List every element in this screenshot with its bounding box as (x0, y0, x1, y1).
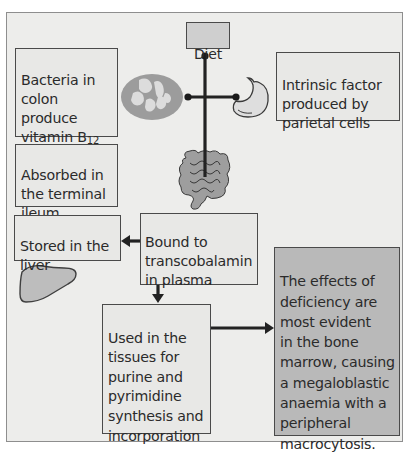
absorbed-box: Absorbed in the terminal ileum (15, 144, 118, 207)
bacteria-icon (121, 74, 183, 120)
intrinsic-factor-box: Intrinsic factor produced by parietal ce… (276, 52, 400, 121)
intrinsic-factor-label: Intrinsic factor produced by parietal ce… (282, 77, 382, 131)
used-in-tissues-label: Used in the tissues for purine and pyrim… (108, 330, 203, 444)
diet-label: Diet (194, 46, 222, 62)
arrow-used-to-effects (210, 322, 274, 334)
bound-transcobalamin-box: Bound to transcobalamin in plasma (140, 213, 258, 285)
bacteria-label: Bacteria in colon produce vitamin B (21, 72, 95, 145)
deficiency-effects-label: The effects of deficiency are most evide… (280, 273, 395, 451)
bacteria-box: Bacteria in colon produce vitamin B12 (15, 48, 118, 137)
diet-box: Diet (186, 22, 230, 49)
bound-transcobalamin-label: Bound to transcobalamin in plasma (145, 234, 252, 288)
stored-liver-box: Stored in the liver (14, 215, 121, 261)
deficiency-effects-box: The effects of deficiency are most evide… (274, 247, 400, 436)
arrow-bound-to-stored (121, 235, 140, 247)
used-in-tissues-box: Used in the tissues for purine and pyrim… (102, 304, 211, 434)
